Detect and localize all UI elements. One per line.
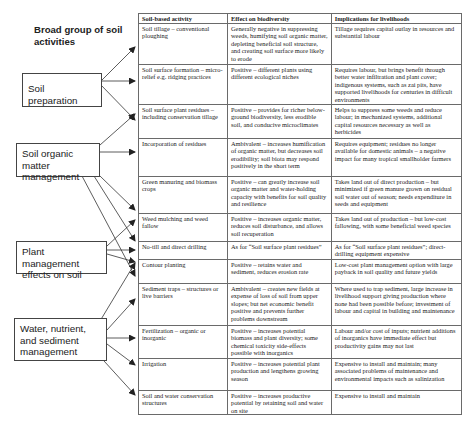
group-label: Plant management effects on soil xyxy=(22,246,82,280)
cell-activity: Soil tillage – conventional ploughing xyxy=(139,23,228,64)
cell-effect: Positive – different plants using differ… xyxy=(227,64,331,104)
group-soil-preparation: Soil preparation xyxy=(22,73,102,107)
cell-effect: Positive – increases potential biomass a… xyxy=(227,325,331,358)
cell-livelihoods: Takes land out of direct production – bu… xyxy=(331,176,461,213)
cell-effect: Positive – increases organic matter, red… xyxy=(227,213,331,241)
cell-effect: Ambivalent – creates new fields at expen… xyxy=(227,283,331,325)
arrow-som-weed-mulching xyxy=(94,176,135,241)
group-plant-management: Plant management effects on soil xyxy=(16,241,107,274)
cell-livelihoods: Helps to suppress some weeds and reduce … xyxy=(331,104,461,138)
table-row: Green manuring and biomass crops Positiv… xyxy=(139,176,462,213)
cell-livelihoods: Takes land out of production – but low-c… xyxy=(331,213,461,241)
cell-effect: As for “Soil surface plant residues” xyxy=(227,241,331,259)
cell-livelihoods: Low-cost plant management option with la… xyxy=(331,259,461,283)
arrow-plant-contour xyxy=(107,254,135,262)
cell-livelihoods: As for “Soil surface plant residues”; di… xyxy=(331,241,461,259)
cell-activity: Soil surface plant residues – including … xyxy=(139,104,228,138)
cell-effect: Positive – increases productive potentia… xyxy=(227,390,331,415)
table-row: Soil and water conservation structures P… xyxy=(139,390,462,415)
table-row: No-till and direct drilling As for “Soil… xyxy=(139,241,462,259)
table-row: Fertilization – organic or inorganic Pos… xyxy=(139,325,462,358)
arrow-plant-weed-mulching xyxy=(107,220,135,246)
cell-activity: Sediment traps – structures or live barr… xyxy=(139,283,228,325)
table-row: Incorporation of residues Ambivalent – i… xyxy=(139,138,462,176)
cell-activity: No-till and direct drilling xyxy=(139,241,228,259)
table-header-row: Soil-based activity Effect on biodiversi… xyxy=(139,14,462,24)
table-row: Sediment traps – structures or live barr… xyxy=(139,283,462,325)
cell-livelihoods: Requires labour, but brings benefit thro… xyxy=(331,64,461,104)
cell-effect: Ambivalent – increases humification of o… xyxy=(227,138,331,176)
cell-livelihoods: Expensive to install and maintain xyxy=(331,390,461,415)
cell-activity: Contour planting xyxy=(139,259,228,283)
header-effect: Effect on biodiversity xyxy=(227,14,331,24)
cell-activity: Incorporation of residues xyxy=(139,138,228,176)
table-row: Soil tillage – conventional ploughing Ge… xyxy=(139,23,462,64)
header-livelihoods: Implications for livelihoods xyxy=(331,14,461,24)
cell-activity: Irrigation xyxy=(139,358,228,390)
arrow-som-residues xyxy=(100,114,135,145)
group-label: Soil organic matter management xyxy=(22,148,79,182)
group-label: Soil preparation xyxy=(28,83,78,106)
table-row: Soil surface formation – micro-relief e.… xyxy=(139,64,462,104)
cell-livelihoods: Labour and/or cost of inputs; nutrient a… xyxy=(331,325,461,358)
cell-effect: Generally negative in suppressing weeds,… xyxy=(227,23,331,64)
table-row: Contour planting Positive – retains wate… xyxy=(139,259,462,283)
cell-effect: Positive – increases potential plant pro… xyxy=(227,358,331,390)
arrow-water-sediment xyxy=(107,299,135,330)
arrow-water-irrigation xyxy=(107,344,135,365)
table-row: Soil surface plant residues – including … xyxy=(139,104,462,138)
arrow-prep-residues xyxy=(100,84,135,120)
cell-effect: Positive – provides for richer below-gro… xyxy=(227,104,331,138)
cell-activity: Weed mulching and weed fallow xyxy=(139,213,228,241)
cell-activity: Fertilization – organic or inorganic xyxy=(139,325,228,358)
cell-activity: Soil surface formation – micro-relief e.… xyxy=(139,64,228,104)
group-water-nutrient-sediment: Water, nutrient, and sediment management xyxy=(14,318,107,361)
group-soil-organic-matter: Soil organic matter management xyxy=(16,143,100,177)
arrow-prep-tillage xyxy=(100,47,135,82)
soil-activities-table: Soil-based activity Effect on biodiversi… xyxy=(138,13,462,415)
arrow-som-green-manuring xyxy=(100,176,135,210)
cell-activity: Soil and water conservation structures xyxy=(139,390,228,415)
table-row: Weed mulching and weed fallow Positive –… xyxy=(139,213,462,241)
header-activity: Soil-based activity xyxy=(139,14,228,24)
cell-livelihoods: Expensive to install and maintain; many … xyxy=(331,358,461,390)
cell-livelihoods: Tillage requires capital outlay in resou… xyxy=(331,23,461,64)
cell-livelihoods: Where used to trap sediment, large incre… xyxy=(331,283,461,325)
cell-activity: Green manuring and biomass crops xyxy=(139,176,228,213)
cell-effect: Positive – retains water and sediment, r… xyxy=(227,259,331,283)
group-label: Water, nutrient, and sediment management xyxy=(20,323,86,357)
cell-livelihoods: Requires equipment; residues no longer a… xyxy=(331,138,461,176)
cell-effect: Positive – can greatly increase soil org… xyxy=(227,176,331,213)
table-row: Irrigation Positive – increases potentia… xyxy=(139,358,462,390)
